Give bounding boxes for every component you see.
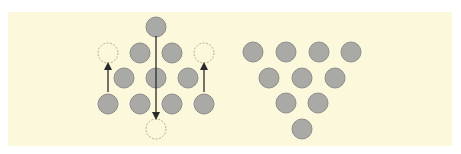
coin (276, 93, 296, 113)
coin (130, 43, 150, 63)
coin (308, 93, 328, 113)
coin (162, 43, 182, 63)
coin (325, 68, 345, 88)
empty-target-position (194, 43, 214, 63)
coin (130, 94, 150, 114)
coin (292, 68, 312, 88)
coin (243, 42, 263, 62)
coin (146, 17, 166, 37)
coin (178, 68, 198, 88)
coin (276, 42, 296, 62)
empty-target-position (146, 119, 166, 139)
coin (162, 94, 182, 114)
coin (259, 68, 279, 88)
coin (309, 42, 329, 62)
empty-target-position (98, 43, 118, 63)
coin (98, 94, 118, 114)
left-diagram-before-moves (98, 17, 214, 139)
coin-triangle-figure (0, 0, 461, 154)
coin (292, 119, 312, 139)
coin (341, 42, 361, 62)
right-diagram-inverted-triangle (243, 42, 361, 139)
coin (114, 68, 134, 88)
coin (194, 94, 214, 114)
